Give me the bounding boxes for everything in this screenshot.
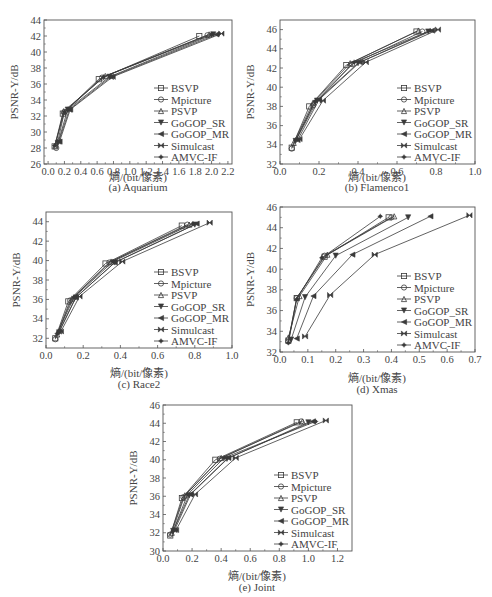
legend-item: AMVC-IF [171, 335, 217, 347]
series-markers [289, 215, 411, 342]
chart-c: 0.00.20.40.60.81.032343638404244PSNR-Y/d… [10, 212, 239, 361]
x-tick-label: 0.8 [188, 350, 201, 361]
y-tick-label: 44 [33, 216, 44, 227]
series-line-gogop_mr [298, 31, 433, 140]
legend-item: BSVP [171, 266, 199, 278]
x-tick-label: 0.4 [74, 166, 88, 177]
legend-item: Simulcast [291, 527, 334, 539]
legend-item: GoGOP_SR [291, 504, 346, 516]
x-tick-label: 0.4 [215, 553, 229, 564]
x-tick-label: 0.2 [58, 166, 71, 177]
legend-item: Simulcast [414, 328, 457, 340]
y-tick-label: 36 [31, 79, 42, 90]
y-tick-label: 44 [267, 43, 278, 54]
y-tick-label: 38 [33, 275, 44, 286]
y-tick-label: 34 [31, 95, 42, 106]
series-line-mpicture [292, 32, 423, 149]
series-markers [53, 223, 185, 341]
legend-item: Simulcast [171, 324, 214, 336]
y-tick-label: 38 [267, 101, 278, 112]
caption-d: (d) Xmas [327, 383, 427, 395]
legend-item: GoGOP_SR [171, 301, 226, 313]
legend: BSVPMpicturePSVPGoGOP_SRGoGOP_MRSimulcas… [397, 82, 473, 163]
series-line-gogop_sr [173, 422, 308, 531]
legend-item: PSVP [414, 105, 440, 117]
legend: BSVPMpicturePSVPGoGOP_SRGoGOP_MRSimulcas… [154, 266, 230, 347]
y-tick-label: 36 [33, 294, 44, 305]
y-tick-label: 28 [31, 143, 42, 154]
x-tick-label: 1.2 [331, 553, 344, 564]
series-markers [286, 214, 383, 346]
y-tick-label: 38 [31, 63, 42, 74]
legend-item: BSVP [291, 469, 319, 481]
y-tick-label: 32 [33, 333, 44, 344]
x-tick-label: 1.0 [225, 350, 238, 361]
x-tick-label: 0.4 [114, 350, 128, 361]
legend-item: BSVP [171, 82, 199, 94]
legend-item: AMVC-IF [414, 339, 460, 351]
y-tick-label: 36 [150, 491, 161, 502]
legend-item: Mpicture [414, 94, 454, 106]
y-axis-label: PSNR-Y/dB [127, 450, 139, 505]
series-markers [286, 214, 397, 340]
y-tick-label: 30 [31, 127, 42, 138]
series-line-psvp [294, 31, 419, 143]
y-tick-label: 36 [267, 120, 278, 131]
x-tick-label: 0.1 [301, 354, 314, 365]
series-markers [293, 29, 431, 144]
x-tick-label: 1.0 [468, 166, 481, 177]
x-tick-label: 1.0 [302, 553, 315, 564]
y-tick-label: 44 [267, 222, 278, 233]
y-tick-label: 44 [150, 418, 161, 429]
y-tick-label: 42 [33, 236, 44, 247]
x-tick-label: 0.7 [468, 354, 481, 365]
x-tick-label: 0.4 [385, 354, 399, 365]
y-tick-label: 34 [150, 509, 161, 520]
chart-a: 0.00.20.40.60.81.01.21.41.61.82.02.22628… [8, 15, 234, 178]
y-tick-label: 36 [267, 305, 278, 316]
x-tick-label: 0.2 [329, 354, 342, 365]
charts-canvas: 0.00.20.40.60.81.01.21.41.61.82.02.22628… [0, 0, 492, 597]
y-tick-label: 42 [150, 436, 161, 447]
series-line-bsvp [292, 32, 417, 148]
series-line-gogop_sr [296, 32, 429, 142]
series-line-bsvp [170, 422, 296, 535]
y-tick-label: 32 [150, 527, 161, 538]
x-tick-label: 0.5 [413, 354, 426, 365]
chart-d: 0.00.10.20.30.40.50.60.73234363840424446… [244, 202, 482, 366]
y-tick-label: 32 [267, 347, 278, 358]
series-line-gogop_mr [297, 216, 431, 338]
legend-item: GoGOP_SR [414, 117, 469, 129]
legend-item: Mpicture [171, 94, 211, 106]
x-tick-label: 0.2 [312, 166, 325, 177]
x-tick-label: 0.6 [441, 354, 454, 365]
legend-item: GoGOP_MR [171, 128, 230, 140]
x-tick-label: 0.8 [429, 166, 442, 177]
y-tick-label: 38 [150, 473, 161, 484]
legend-item: GoGOP_SR [171, 117, 226, 129]
legend-item: BSVP [414, 82, 442, 94]
chart-e: 0.00.20.40.60.81.01.2303234363840424446P… [127, 400, 352, 565]
series-markers [169, 419, 305, 536]
y-tick-label: 46 [267, 202, 278, 213]
series-line-psvp [57, 225, 189, 335]
y-tick-label: 34 [33, 313, 44, 324]
legend-item: Mpicture [291, 481, 331, 493]
y-tick-label: 34 [267, 326, 278, 337]
legend-item: Simulcast [171, 140, 214, 152]
y-axis-label: PSNR-Y/dB [244, 252, 256, 307]
legend-item: AMVC-IF [414, 151, 460, 163]
series-markers [286, 215, 391, 343]
x-tick-label: 0.2 [186, 553, 199, 564]
y-tick-label: 26 [31, 159, 42, 170]
legend-item: PSVP [171, 289, 197, 301]
legend-item: GoGOP_MR [291, 515, 350, 527]
y-tick-label: 46 [267, 24, 278, 35]
x-tick-label: 0.6 [244, 553, 257, 564]
legend-item: BSVP [414, 270, 442, 282]
caption-e: (e) Joint [207, 581, 307, 593]
y-tick-label: 42 [267, 63, 278, 74]
legend-item: PSVP [291, 492, 317, 504]
y-tick-label: 32 [267, 159, 278, 170]
caption-a: (a) Aquarium [88, 181, 188, 193]
